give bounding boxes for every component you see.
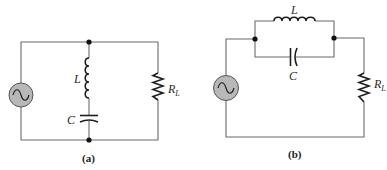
capacitor-label-a: C <box>67 113 76 127</box>
circuit-b: L C RL (b) <box>214 3 387 161</box>
node-bottom-a <box>86 137 91 142</box>
wire-right-b <box>334 38 364 73</box>
wire-bottom-b <box>226 100 364 137</box>
resistor-label-b: RL <box>373 77 386 93</box>
inductor-icon <box>274 17 315 21</box>
ac-source-icon <box>9 83 33 107</box>
node-left-b <box>252 36 257 41</box>
caption-a: (a) <box>82 152 95 165</box>
ac-source-icon <box>214 76 239 101</box>
inductor-label-b: L <box>290 3 298 17</box>
resistor-icon <box>153 73 163 100</box>
node-right-b <box>331 35 336 40</box>
circuit-figure: L C RL (a) L <box>0 0 387 170</box>
wire-tank-bottom-right <box>296 38 334 57</box>
wire-tank-bottom-left <box>255 39 290 57</box>
resistor-label-a: RL <box>167 82 180 98</box>
caption-b: (b) <box>288 148 302 161</box>
inductor-label-a: L <box>73 72 81 86</box>
inductor-icon <box>85 58 89 98</box>
wire-left-b <box>226 39 255 76</box>
wire-tank-top-right <box>315 21 334 38</box>
circuit-a: L C RL (a) <box>9 39 180 165</box>
node-top-a <box>86 39 91 44</box>
resistor-icon <box>359 73 369 102</box>
wire-tank-top-left <box>255 21 274 39</box>
capacitor-label-b: C <box>289 69 298 83</box>
